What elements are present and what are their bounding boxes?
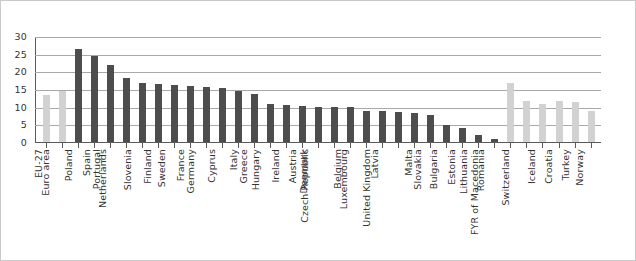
bar[interactable] [523,101,530,143]
tick-slot [487,143,503,148]
bar[interactable] [251,94,258,143]
x-tick-mark [334,143,335,148]
x-axis-category-labels: EU-27Euro areaPolandSpainPortugalNetherl… [35,149,601,254]
bar[interactable] [331,107,338,143]
tick-slot [455,143,471,148]
tick-slot [471,143,487,148]
x-tick-mark [254,143,255,148]
bar-slot [86,37,102,143]
bar[interactable] [187,86,194,143]
x-tick-mark [510,143,511,148]
bar[interactable] [363,111,370,144]
y-tick-label: 30 [15,32,28,42]
x-category-label: Sweden [157,149,167,187]
bar[interactable] [59,91,66,143]
bar-slot [295,37,311,143]
label-slot: Latvia [375,149,391,254]
x-tick-mark [350,143,351,148]
y-axis-tick-labels: 302520151050 [1,37,31,143]
tick-slot [327,143,343,148]
x-tick-mark [478,143,479,148]
bar-slot [118,37,134,143]
bar[interactable] [507,83,514,143]
bar[interactable] [443,125,450,143]
bar[interactable] [539,104,546,143]
y-tick-label: 0 [21,138,27,148]
bar[interactable] [203,87,210,143]
tick-slot [118,143,134,148]
tick-slot [150,143,166,148]
tick-slot [166,143,182,148]
bar[interactable] [139,83,146,143]
x-tick-mark [302,143,303,148]
tick-slot [54,143,70,148]
bar[interactable] [572,102,579,143]
bar[interactable] [379,111,386,143]
x-tick-mark [366,143,367,148]
x-tick-mark [110,143,111,148]
tick-slot [567,143,583,148]
x-category-label: Czech Republic [300,149,310,223]
x-category-label: Poland [64,149,74,181]
bar[interactable] [171,85,178,143]
tick-slot [375,143,391,148]
bar-slot [38,37,54,143]
bar[interactable] [299,106,306,143]
bar[interactable] [459,128,466,143]
bar[interactable] [107,65,114,143]
bar-slot [583,37,599,143]
tick-slot [182,143,198,148]
bar-slot [503,37,519,143]
bar[interactable] [43,95,50,143]
tick-slot [246,143,262,148]
x-tick-mark [414,143,415,148]
tick-slot [535,143,551,148]
x-category-label: Turkey [561,149,571,181]
bar[interactable] [283,105,290,143]
bar[interactable] [588,111,595,143]
x-category-label: Estonia [447,149,457,185]
bar-slot [407,37,423,143]
x-category-label: Switzerland [501,149,511,206]
y-tick-label: 15 [15,85,28,95]
bar-slot [567,37,583,143]
bar[interactable] [123,78,130,143]
bar[interactable] [75,49,82,143]
tick-slot [311,143,327,148]
bar[interactable] [427,115,434,143]
label-slot: Denmark [311,149,327,254]
bar[interactable] [347,107,354,143]
x-category-label: Luxembourg [339,149,349,209]
bar[interactable] [411,113,418,143]
x-tick-mark [318,143,319,148]
tick-slot [439,143,455,148]
bar[interactable] [91,56,98,143]
tick-slot [503,143,519,148]
x-axis-tick-marks [35,143,601,148]
x-category-label: Cyprus [207,149,217,183]
bar[interactable] [219,88,226,143]
x-tick-mark [190,143,191,148]
tick-slot [583,143,599,148]
x-category-label: Norway [575,149,585,186]
x-tick-mark [430,143,431,148]
bar[interactable] [267,104,274,143]
bar[interactable] [395,112,402,143]
x-tick-mark [62,143,63,148]
x-category-label: Finland [143,149,153,184]
tick-slot [102,143,118,148]
bar-slot [455,37,471,143]
bar-slot [519,37,535,143]
bar[interactable] [556,101,563,143]
bar[interactable] [155,84,162,143]
x-category-label: Croatia [544,149,554,184]
x-tick-mark [158,143,159,148]
bar-slot [487,37,503,143]
bar[interactable] [235,91,242,143]
y-tick-label: 25 [15,50,28,60]
x-tick-mark [142,143,143,148]
bar[interactable] [315,107,322,143]
bar-slot [471,37,487,143]
x-tick-mark [591,143,592,148]
x-category-label: Euro area [41,149,51,196]
